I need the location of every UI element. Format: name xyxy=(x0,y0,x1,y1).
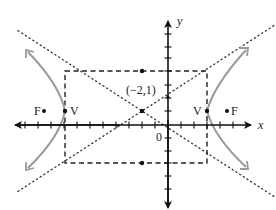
x-axis-label: x xyxy=(257,118,264,132)
center-point xyxy=(140,109,144,113)
center-label: (−2,1) xyxy=(126,83,156,97)
right-branch xyxy=(207,50,246,167)
right-vertex-label: V xyxy=(193,104,202,118)
origin-label: 0 xyxy=(156,130,162,144)
left-vertex-label: V xyxy=(70,104,79,118)
left-focus-label: F xyxy=(34,104,41,118)
left-vertex-point xyxy=(63,109,67,113)
rectangle-bottom-midpoint xyxy=(140,161,144,165)
y-axis-intercept-point xyxy=(166,95,169,98)
right-focus-label: F xyxy=(231,104,238,118)
hyperbola-branches xyxy=(26,48,248,170)
y-axis-label: y xyxy=(176,14,183,28)
right-vertex-point xyxy=(205,109,209,113)
hyperbola-diagram: x y 0 (−2,1) V V F F xyxy=(0,0,276,210)
left-focus-point xyxy=(42,109,46,113)
rectangle-top-midpoint xyxy=(140,69,144,73)
right-focus-point xyxy=(225,109,229,113)
axes xyxy=(15,21,251,208)
